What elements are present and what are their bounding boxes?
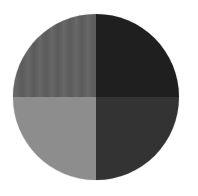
quadrant-top-left-position: top-left	[13, 14, 14, 15]
quadrant-top-right: top-right	[96, 14, 179, 97]
quadrant-bottom-left: bottom-left	[13, 97, 96, 180]
quadrant-bottom-right: bottom-right	[96, 97, 179, 180]
quadrant-top-right-position: top-right	[96, 14, 97, 15]
quadrant-bottom-right-position: bottom-right	[96, 97, 97, 98]
quadrant-disc: top-left top-right bottom-left bottom-ri…	[13, 14, 179, 180]
quadrant-top-left: top-left	[13, 14, 96, 97]
quadrant-bottom-left-position: bottom-left	[13, 97, 14, 98]
